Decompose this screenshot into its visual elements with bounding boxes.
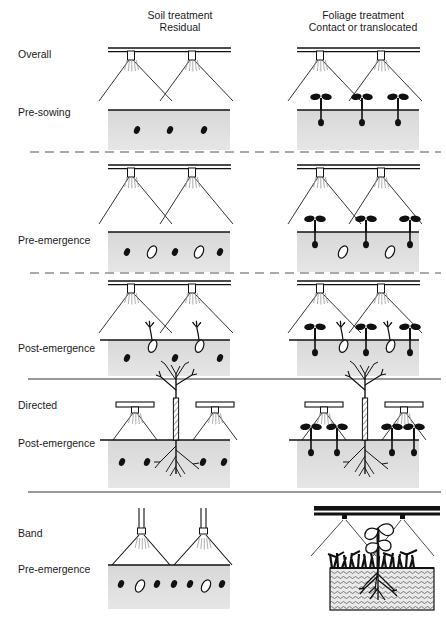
header-soil-line2: Residual <box>160 21 201 33</box>
spray-nozzle <box>128 284 135 293</box>
soil-band-textured <box>330 568 434 610</box>
header-soil-line1: Soil treatment <box>148 9 213 21</box>
soil-band <box>289 440 419 488</box>
soil-band <box>289 340 419 376</box>
spray-nozzle <box>189 51 196 60</box>
spray-nozzle <box>378 168 385 177</box>
row-label-band-pre-emergence: Pre-emergence <box>18 563 91 575</box>
spray-nozzle <box>317 284 324 293</box>
row-label-directed-post-emergence: Post-emergence <box>18 437 95 449</box>
spray-nozzle <box>342 515 347 519</box>
spray-nozzle <box>400 515 405 519</box>
row-label-post-emergence: Post-emergence <box>18 342 95 354</box>
row-label-band: Band <box>18 527 43 539</box>
row-label-directed: Directed <box>18 399 57 411</box>
row-label-overall: Overall <box>18 48 51 60</box>
spray-nozzle <box>317 168 324 177</box>
soil-band <box>100 340 230 376</box>
spray-nozzle <box>189 284 196 293</box>
soil-band <box>297 110 419 150</box>
spray-nozzle <box>378 284 385 293</box>
header-foliage-line1: Foliage treatment <box>322 9 404 21</box>
column-header-foliage-treatment: Foliage treatment Contact or translocate… <box>309 9 418 33</box>
spray-nozzle <box>317 51 324 60</box>
soil-band <box>108 565 230 609</box>
header-foliage-line2: Contact or translocated <box>309 21 418 33</box>
spray-nozzle <box>189 168 196 177</box>
row-label-pre-emergence: Pre-emergence <box>18 234 91 246</box>
spray-nozzle <box>128 168 135 177</box>
spray-nozzle <box>378 51 385 60</box>
row-label-pre-sowing: Pre-sowing <box>18 106 71 118</box>
spray-nozzle <box>128 51 135 60</box>
herbicide-application-diagram: Soil treatment Residual Foliage treatmen… <box>0 0 446 621</box>
